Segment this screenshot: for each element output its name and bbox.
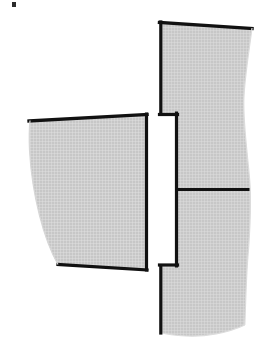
pattern-vector-graphic — [0, 0, 263, 356]
right-pattern-piece — [160, 22, 252, 336]
left-pattern-piece — [29, 114, 147, 270]
right-pattern-piece-group — [160, 22, 253, 336]
pattern-diagram-canvas — [0, 0, 263, 356]
corner-speck-mark — [12, 2, 16, 7]
left-pattern-piece-group — [29, 114, 147, 270]
